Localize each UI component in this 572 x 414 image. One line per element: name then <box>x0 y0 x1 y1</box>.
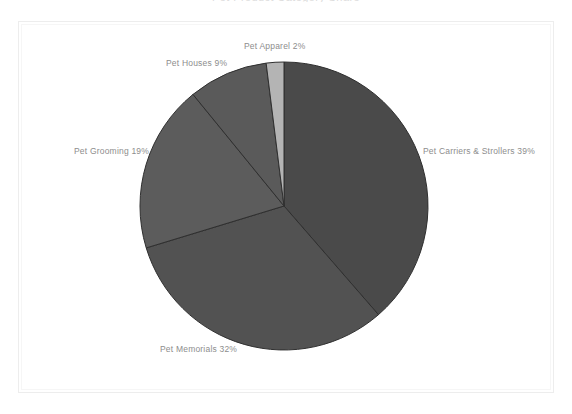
pie-chart-plot <box>0 0 572 414</box>
slice-label-pet-apparel: Pet Apparel 2% <box>244 41 305 51</box>
slice-label-pet-houses: Pet Houses 9% <box>166 58 227 68</box>
slice-label-pet-memorials: Pet Memorials 32% <box>160 344 237 354</box>
slice-label-pet-carriers-strollers: Pet Carriers & Strollers 39% <box>423 146 535 156</box>
slice-label-pet-grooming: Pet Grooming 19% <box>74 146 149 156</box>
pie-slice-group <box>140 62 428 350</box>
